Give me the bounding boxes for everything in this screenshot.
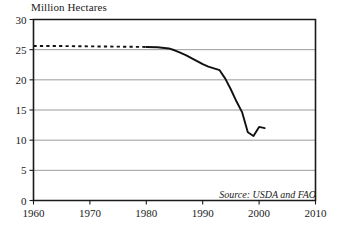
y-tick-label-25: 25 — [16, 44, 28, 56]
series-line-1 — [146, 47, 264, 136]
x-tick-label-2000: 2000 — [248, 207, 271, 219]
y-tick-label-20: 20 — [16, 74, 28, 86]
x-tick-label-2010: 2010 — [305, 207, 328, 219]
x-axis-ticks: 196019701980199020002010 — [23, 201, 328, 219]
source-note: Source: USDA and FAO — [219, 189, 316, 200]
x-tick-label-1990: 1990 — [192, 207, 215, 219]
y-axis-ticks: 051015202530 — [16, 14, 34, 207]
y-tick-label-15: 15 — [16, 104, 28, 116]
data-series — [34, 46, 265, 136]
x-tick-label-1970: 1970 — [79, 207, 102, 219]
gridlines — [34, 50, 316, 171]
series-line-0 — [34, 46, 147, 47]
x-tick-label-1960: 1960 — [23, 207, 46, 219]
chart-page: Million Hectares 051015202530 1960197019… — [0, 0, 341, 238]
line-chart: 051015202530 196019701980199020002010 — [0, 0, 341, 238]
y-tick-label-0: 0 — [21, 195, 27, 207]
y-tick-label-30: 30 — [16, 14, 28, 26]
y-tick-label-5: 5 — [21, 164, 27, 176]
y-tick-label-10: 10 — [16, 134, 28, 146]
x-tick-label-1980: 1980 — [135, 207, 158, 219]
